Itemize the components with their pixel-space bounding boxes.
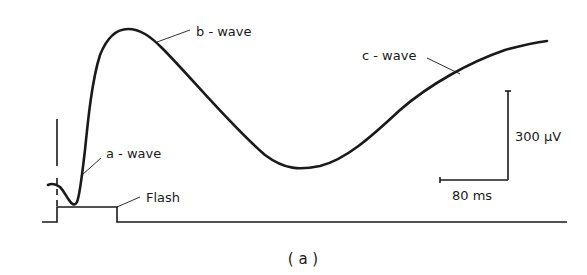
voltage-scale-label: 300 μV [515, 129, 561, 144]
time-scale-label: 80 ms [452, 188, 492, 203]
c-wave-label: c - wave [362, 48, 416, 63]
figure-caption: ( a ) [288, 250, 318, 268]
flash-stimulus-trace [42, 207, 567, 222]
flash-label: Flash [146, 190, 180, 205]
b-wave-leader [157, 30, 190, 42]
erg-trace [48, 29, 547, 204]
flash-leader [117, 197, 140, 207]
a-wave-label: a - wave [106, 146, 161, 161]
erg-waveform-diagram: b - wave a - wave c - wave Flash 300 μV … [0, 0, 587, 275]
b-wave-label: b - wave [196, 24, 252, 39]
c-wave-leader [427, 58, 460, 74]
